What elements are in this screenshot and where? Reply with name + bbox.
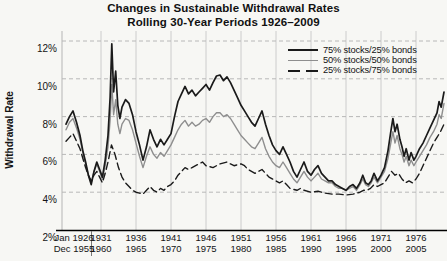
series-line-50-stocks-50-bonds	[66, 85, 444, 191]
x-tick-label-top: 1946	[195, 233, 216, 244]
x-tick-label-top: 1941	[160, 233, 181, 244]
x-tick-label-bottom: 2000	[370, 244, 391, 255]
x-tick-label-bottom: 1975	[195, 244, 216, 255]
y-tick-label: 6%	[20, 156, 57, 167]
legend-label: 50% stocks/50% bonds	[323, 56, 417, 65]
x-tick-label-bottom: 1990	[300, 244, 321, 255]
x-tick-label-bottom: 1995	[335, 244, 356, 255]
legend-label: 25% stocks/75% bonds	[323, 66, 417, 75]
x-tick-label-bottom: 1985	[265, 244, 286, 255]
x-tick-label-top: 1956	[265, 233, 286, 244]
legend-line-sample-dashed	[288, 70, 318, 72]
legend-row: 75% stocks/25% bonds	[288, 46, 417, 55]
legend-line-sample-solid	[288, 49, 318, 51]
x-tick-label-bottom: 1965	[125, 244, 146, 255]
x-tick-label-top: 1931	[90, 233, 111, 244]
x-tick-label-top: 1971	[370, 233, 391, 244]
legend-row: 50% stocks/50% bonds	[288, 56, 417, 65]
legend-line-sample-solid	[288, 60, 318, 62]
x-tick-label-bottom: 1960	[90, 244, 111, 255]
x-tick-label-top: 1961	[300, 233, 321, 244]
legend-label: 75% stocks/25% bonds	[323, 46, 417, 55]
y-tick-label: 4%	[20, 194, 57, 205]
x-tick-label-bottom: Dec 1955	[54, 244, 95, 255]
x-tick-label-bottom: 2005	[405, 244, 426, 255]
x-tick-label-bottom: 1980	[230, 244, 251, 255]
x-tick-label-top: 1966	[335, 233, 356, 244]
x-tick-label-top: Jan 1926	[54, 233, 93, 244]
x-tick-label-bottom: 1970	[160, 244, 181, 255]
plot-area	[0, 0, 447, 261]
x-tick-label-top: 1976	[405, 233, 426, 244]
y-tick-label: 10%	[20, 81, 57, 92]
y-tick-label: 12%	[20, 43, 57, 54]
y-tick-label: 8%	[20, 119, 57, 130]
x-tick-label-top: 1951	[230, 233, 251, 244]
y-tick-label: 2%	[20, 232, 57, 243]
legend-row: 25% stocks/75% bonds	[288, 66, 417, 75]
x-tick-label-top: 1936	[125, 233, 146, 244]
withdrawal-rate-chart: Changes in Sustainable Withdrawal Rates …	[0, 0, 447, 261]
